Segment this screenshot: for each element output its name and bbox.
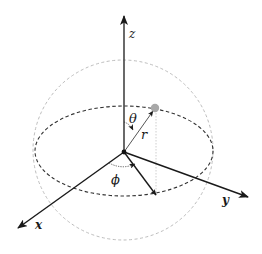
y-axis xyxy=(124,152,248,197)
x-axis xyxy=(18,152,124,228)
origin-point xyxy=(122,150,127,155)
point-marker xyxy=(151,104,159,112)
r-label: r xyxy=(141,127,148,142)
z-axis-label: z xyxy=(128,27,136,41)
spherical-coordinates-diagram: z x y θ r ϕ xyxy=(0,0,262,254)
phi-arc xyxy=(109,163,135,167)
y-axis-label: y xyxy=(221,193,230,207)
phi-label: ϕ xyxy=(111,172,120,187)
theta-label: θ xyxy=(129,111,137,126)
x-axis-label: x xyxy=(34,218,43,232)
